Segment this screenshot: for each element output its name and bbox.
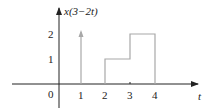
y-axis-label: x(3−2t) <box>63 5 98 18</box>
origin-label: 0 <box>48 88 54 100</box>
signal-steps <box>105 34 155 84</box>
y-tick-label-1: 1 <box>48 53 54 65</box>
x-tick-label-4: 4 <box>152 89 158 101</box>
impulse-arrow-icon <box>79 30 84 37</box>
x-tick-label-2: 2 <box>102 89 108 101</box>
x-tick-label-3: 3 <box>127 89 133 101</box>
signal-plot: x(3−2t) t 2 1 0 1 2 3 4 <box>0 0 210 111</box>
y-tick-label-2: 2 <box>48 28 54 40</box>
x-axis-label: t <box>198 90 202 102</box>
x-tick-label-1: 1 <box>78 89 84 101</box>
